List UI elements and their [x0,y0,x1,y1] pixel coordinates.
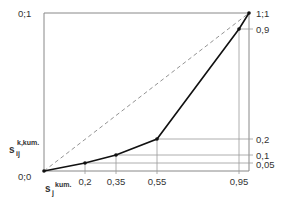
equality-line [44,13,249,171]
label-top-left: 0;1 [18,8,31,19]
x-axis-label: s [45,183,51,194]
tick-x-0-95: 0,95 [230,176,249,187]
point-0-55 [155,137,159,141]
point-0-35 [114,153,118,157]
tick-x-0-35: 0,35 [107,176,126,187]
tick-x-0-55: 0,55 [148,176,167,187]
label-top-right: 1;1 [256,8,269,19]
y-axis-label-sub: ij [16,150,20,158]
tick-y-0-2: 0,2 [256,134,269,145]
label-origin: 0;0 [18,171,31,182]
tick-y-0-9: 0,9 [256,24,269,35]
point-0-0 [42,169,46,173]
y-axis-label-sup: k,kum. [17,139,39,147]
tick-y-0-05: 0,05 [256,159,275,170]
tick-x-0-2: 0,2 [78,176,91,187]
point-0-2 [83,161,87,165]
y-axis-label: s [9,144,15,155]
x-axis-label-sup: kum. [55,181,71,188]
lorenz-chart: 0;1 0;0 1;1 0,9 0,2 0,1 0,05 0,2 0,35 0,… [0,0,288,200]
point-1-1 [247,11,251,15]
point-0-95 [237,27,241,31]
x-axis-label-sub: j [51,189,54,197]
